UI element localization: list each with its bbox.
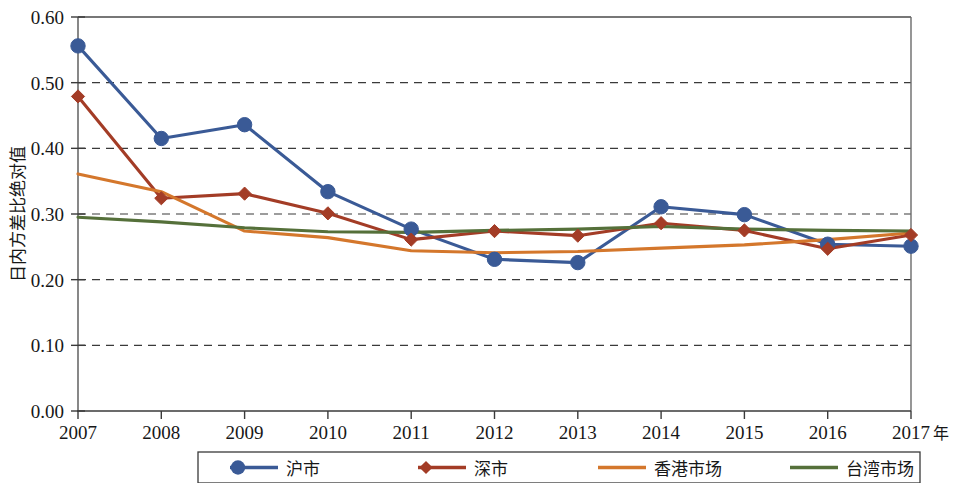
legend-item-label: 深市: [474, 459, 508, 479]
y-tick-label: 0.30: [31, 204, 64, 225]
series-line: [78, 174, 911, 253]
data-point-marker: [487, 252, 501, 266]
data-point-marker: [738, 224, 751, 237]
y-tick-label: 0.00: [31, 401, 64, 422]
x-tick-label: 2016: [809, 422, 847, 443]
x-tick-label: 2015: [725, 422, 763, 443]
data-point-marker: [737, 207, 751, 221]
chart-container: 0.000.100.200.300.400.500.60200720082009…: [0, 0, 967, 483]
data-point-marker: [154, 131, 168, 145]
data-point-marker: [237, 117, 251, 131]
data-point-marker: [71, 39, 85, 53]
x-tick-label: 2007: [59, 422, 97, 443]
y-tick-label: 0.20: [31, 270, 64, 291]
data-point-marker: [488, 224, 501, 237]
x-tick-label: 2013: [559, 422, 597, 443]
data-point-marker: [238, 187, 251, 200]
y-tick-label: 0.50: [31, 73, 64, 94]
x-tick-label: 2017: [892, 422, 930, 443]
data-point-marker: [571, 255, 585, 269]
x-axis-ticks: 2007200820092010201120122013201420152016…: [59, 411, 930, 443]
x-tick-label: 2011: [393, 422, 430, 443]
legend-circle-marker: [231, 460, 245, 474]
legend-item-label: 香港市场: [654, 459, 722, 479]
x-tick-label: 2010: [309, 422, 347, 443]
x-tick-label: 2012: [476, 422, 514, 443]
y-axis-title: 日内方差比绝对值: [8, 146, 28, 282]
x-tick-label: 2009: [226, 422, 264, 443]
y-tick-label: 0.10: [31, 335, 64, 356]
legend-item-label: 台湾市场: [846, 459, 914, 479]
data-point-marker: [321, 207, 334, 220]
gridlines: [78, 83, 911, 346]
data-point-marker: [654, 200, 668, 214]
y-axis-title-text: 日内方差比绝对值: [8, 146, 28, 282]
data-markers-group: [71, 39, 918, 270]
chart-legend: 沪市深市香港市场台湾市场: [198, 452, 920, 483]
y-tick-label: 0.60: [31, 7, 64, 28]
y-axis-ticks: 0.000.100.200.300.400.500.60: [31, 7, 85, 422]
y-tick-label: 0.40: [31, 138, 64, 159]
x-tick-label: 2014: [642, 422, 681, 443]
data-point-marker: [321, 184, 335, 198]
data-point-marker: [571, 229, 584, 242]
x-tick-label: 2008: [142, 422, 180, 443]
line-chart: 0.000.100.200.300.400.500.60200720082009…: [0, 0, 967, 483]
legend-item-label: 沪市: [286, 459, 320, 479]
x-axis-unit-label: 年: [933, 424, 949, 443]
